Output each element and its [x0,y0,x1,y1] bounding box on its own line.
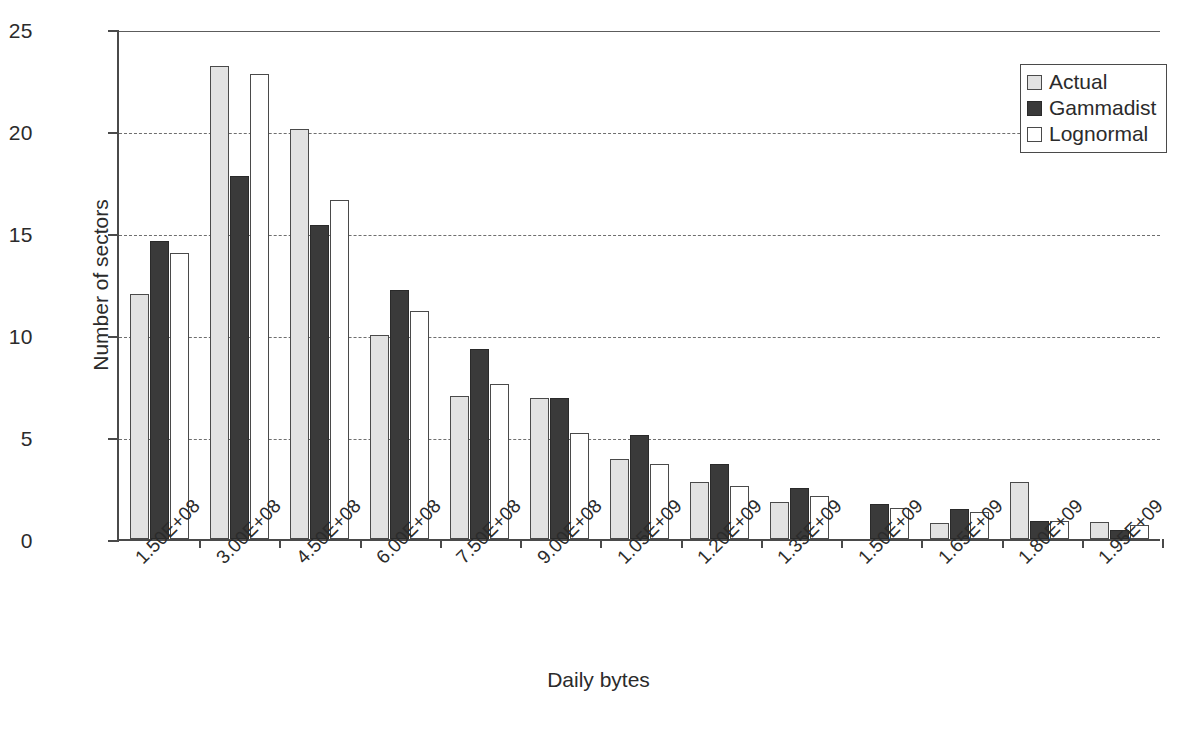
bar-actual [930,523,949,539]
legend-label: Gammadist [1049,96,1156,120]
x-axis-tick-mark [761,539,763,548]
y-axis-tick-label: 0 [0,529,33,553]
bar-actual [690,482,709,539]
y-axis-tick-mark [108,336,119,338]
y-axis-tick-mark [108,234,119,236]
bar-actual [450,396,469,539]
bar-group [279,31,359,539]
y-axis-tick-label: 20 [0,121,33,145]
y-axis-tick-mark [108,438,119,440]
bar-gammadist [390,290,409,539]
bar-gammadist [550,398,569,539]
x-axis-tick-mark [841,539,843,548]
bar-group [519,31,599,539]
legend-swatch-gammadist [1027,101,1042,116]
y-axis-title: Number of sectors [89,199,113,371]
x-axis-tick-mark [279,539,281,548]
figure-caption [120,716,900,731]
y-axis-tick-mark [108,132,119,134]
x-axis-tick-mark [440,539,442,548]
bar-chart-figure: Number of sectors 0510152025 1.50E+083.0… [0,0,1197,731]
x-axis-tick-mark [681,539,683,548]
legend-label: Actual [1049,70,1107,94]
bar-group [680,31,760,539]
bar-group [439,31,519,539]
bar-actual [130,294,149,539]
bar-actual [770,502,789,539]
x-axis-tick-mark [1162,539,1164,548]
bar-group [840,31,920,539]
bar-group [599,31,679,539]
bar-actual [1010,482,1029,539]
y-axis-tick-label: 25 [0,19,33,43]
y-axis-tick-label: 5 [0,427,33,451]
bar-group [760,31,840,539]
x-axis-tick-mark [600,539,602,548]
bar-gammadist [150,241,169,539]
bar-actual [370,335,389,539]
legend-swatch-actual [1027,75,1042,90]
bar-actual [1090,522,1109,539]
x-axis-tick-mark [520,539,522,548]
bar-group [920,31,1000,539]
bar-lognormal [250,74,269,539]
bar-actual [210,66,229,539]
x-axis-title: Daily bytes [0,668,1197,692]
legend-swatch-lognormal [1027,127,1042,142]
bar-group [199,31,279,539]
bar-lognormal [330,200,349,539]
legend-item: Gammadist [1027,95,1156,121]
legend-item: Actual [1027,69,1156,95]
bar-groups [119,31,1160,539]
legend-label: Lognormal [1049,122,1148,146]
x-axis-tick-mark [360,539,362,548]
bar-actual [610,459,629,539]
y-axis-tick-mark [108,540,119,542]
legend-item: Lognormal [1027,121,1156,147]
bar-group [119,31,199,539]
x-axis-tick-mark [921,539,923,548]
bar-gammadist [230,176,249,539]
y-axis-tick-label: 10 [0,325,33,349]
bar-actual [290,129,309,539]
bar-actual [530,398,549,539]
bar-gammadist [470,349,489,539]
bar-gammadist [310,225,329,539]
legend: ActualGammadistLognormal [1020,64,1167,153]
bar-lognormal [170,253,189,539]
plot-area: Number of sectors [117,31,1160,541]
x-axis-tick-mark [1002,539,1004,548]
x-axis-tick-mark [1082,539,1084,548]
y-axis-tick-label: 15 [0,223,33,247]
bar-group [359,31,439,539]
y-axis-tick-mark [108,30,119,32]
x-axis-tick-mark [199,539,201,548]
